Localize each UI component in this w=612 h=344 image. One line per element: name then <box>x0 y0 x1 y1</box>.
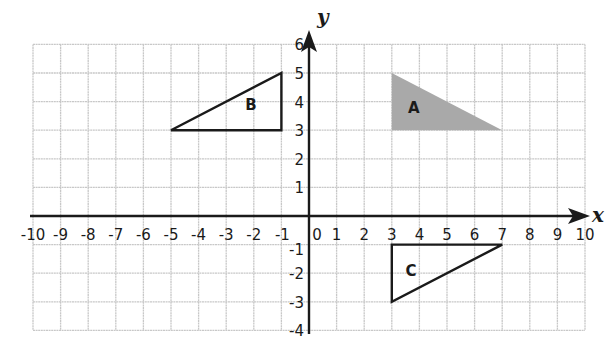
x-tick-label: -9 <box>53 226 68 244</box>
y-tick-label: 4 <box>294 94 304 112</box>
x-tick-label: -4 <box>191 226 206 244</box>
x-tick-labels: -10-9-8-7-6-5-4-3-2-1012345678910 <box>21 226 595 244</box>
triangle-a-label: A <box>408 99 420 117</box>
y-tick-label: 5 <box>294 65 304 83</box>
y-tick-label: 1 <box>294 179 304 197</box>
x-tick-label: 6 <box>470 226 480 244</box>
x-tick-label: 7 <box>497 226 507 244</box>
y-tick-label: -2 <box>289 265 304 283</box>
triangle-c-label: C <box>406 262 417 280</box>
y-tick-label: -4 <box>289 322 304 340</box>
coordinate-plane: ABC x y -10-9-8-7-6-5-4-3-2-101234567891… <box>0 0 612 344</box>
x-tick-label: -10 <box>21 226 46 244</box>
y-tick-label: 6 <box>294 36 304 54</box>
x-axis-label: x <box>591 203 605 227</box>
x-tick-label: -1 <box>275 226 290 244</box>
x-tick-label: -2 <box>246 226 261 244</box>
triangle-b-label: B <box>245 96 256 114</box>
y-tick-label: -3 <box>289 294 304 312</box>
y-axis-label: y <box>316 5 330 29</box>
x-tick-label: 1 <box>332 226 342 244</box>
y-tick-label: -1 <box>289 241 304 259</box>
x-tick-label: 2 <box>359 226 369 244</box>
x-tick-label: -6 <box>136 226 151 244</box>
x-tick-label: 4 <box>415 226 425 244</box>
x-tick-label: 5 <box>442 226 452 244</box>
y-tick-label: 2 <box>294 151 304 169</box>
y-tick-labels: 654321-1-2-3-4 <box>289 36 304 340</box>
x-tick-label: 9 <box>553 226 563 244</box>
y-tick-label: 3 <box>294 122 304 140</box>
x-tick-label: 8 <box>525 226 535 244</box>
x-tick-label: -7 <box>108 226 123 244</box>
x-tick-label: -3 <box>219 226 234 244</box>
x-tick-label: 0 <box>312 226 322 244</box>
x-tick-label: -5 <box>164 226 179 244</box>
x-tick-label: 3 <box>387 226 397 244</box>
x-tick-label: -8 <box>81 226 96 244</box>
x-tick-label: 10 <box>575 226 594 244</box>
